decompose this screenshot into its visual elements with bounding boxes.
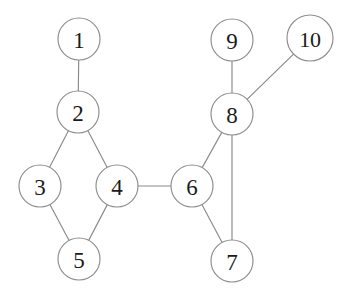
graph-node-1[interactable]: 1 [58, 18, 100, 60]
graph-node-6[interactable]: 6 [171, 165, 213, 207]
edge-2-3 [50, 131, 69, 168]
graph-node-5[interactable]: 5 [58, 238, 100, 280]
edge-4-5 [89, 205, 108, 241]
graph-node-3[interactable]: 3 [19, 165, 61, 207]
graph-node-10[interactable]: 10 [287, 15, 333, 61]
node-label-1: 1 [73, 28, 85, 53]
edge-6-8 [202, 132, 222, 167]
edge-3-5 [50, 205, 69, 241]
edge-8-10 [247, 54, 293, 99]
node-label-10: 10 [299, 27, 321, 52]
node-label-5: 5 [73, 248, 85, 273]
node-label-4: 4 [111, 175, 123, 200]
graph-node-4[interactable]: 4 [96, 165, 138, 207]
node-label-7: 7 [226, 250, 238, 275]
graph-node-2[interactable]: 2 [57, 91, 99, 133]
node-label-3: 3 [34, 175, 46, 200]
graph-diagram: 12345678910 [0, 0, 346, 300]
graph-node-7[interactable]: 7 [211, 240, 253, 282]
nodes-layer: 12345678910 [19, 15, 333, 282]
node-label-8: 8 [226, 103, 238, 128]
graph-node-8[interactable]: 8 [211, 93, 253, 135]
node-label-9: 9 [226, 29, 238, 54]
edge-6-7 [202, 205, 222, 243]
graph-node-9[interactable]: 9 [211, 19, 253, 61]
edges-layer [50, 54, 294, 242]
node-label-6: 6 [186, 175, 198, 200]
node-label-2: 2 [72, 101, 84, 126]
graph-canvas: 12345678910 [0, 0, 346, 300]
edge-2-4 [88, 131, 107, 168]
